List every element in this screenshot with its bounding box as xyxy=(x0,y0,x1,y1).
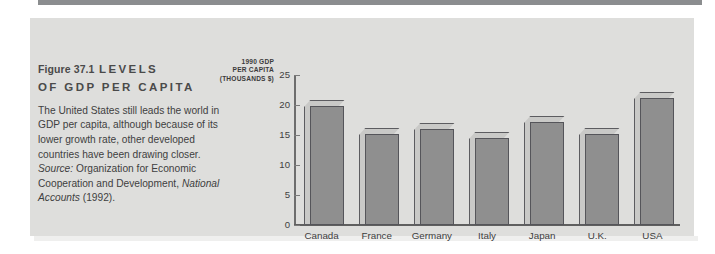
figure-number: Figure 37.1 xyxy=(38,63,95,75)
x-category-label: Japan xyxy=(515,230,570,241)
bar-front-face xyxy=(475,138,509,225)
x-category-label: USA xyxy=(625,230,680,241)
y-tick-label: 15 xyxy=(262,129,290,140)
bar-front-face xyxy=(530,122,564,225)
y-axis-title-line-3: (THOUSANDS $) xyxy=(166,75,274,83)
y-tick-label: 20 xyxy=(262,99,290,110)
bar-front-face xyxy=(365,134,399,225)
bar-group xyxy=(304,75,344,225)
page-top-rule xyxy=(38,0,702,5)
y-tick-label: 0 xyxy=(262,219,290,230)
y-axis-title-line-1: 1990 GDP xyxy=(166,58,274,66)
y-tick-label: 5 xyxy=(262,189,290,200)
bar-front-face xyxy=(310,106,344,225)
bar-series: CanadaFranceGermanyItalyJapanU.K.USA xyxy=(294,75,680,225)
y-tick-label: 25 xyxy=(262,69,290,80)
y-axis-title: 1990 GDP PER CAPITA (THOUSANDS $) xyxy=(166,58,274,83)
figure-caption: The United States still leads the world … xyxy=(38,105,219,160)
figure-caption-block: The United States still leads the world … xyxy=(38,104,234,206)
plot-area: 2520151050 CanadaFranceGermanyItalyJapan… xyxy=(294,75,680,225)
y-tick-label: 10 xyxy=(262,159,290,170)
bar xyxy=(304,100,344,225)
y-tick: 0 xyxy=(294,225,300,226)
source-year: (1992). xyxy=(83,192,115,203)
bar-group xyxy=(414,75,454,225)
x-category-label: Germany xyxy=(404,230,459,241)
x-category-label: Canada xyxy=(294,230,349,241)
figure-heading-line1: LEVELS xyxy=(99,63,158,75)
x-category-label: Italy xyxy=(459,230,514,241)
bar-chart: 1990 GDP PER CAPITA (THOUSANDS $) 252015… xyxy=(248,44,688,234)
bar-front-face xyxy=(640,98,674,225)
bar-group xyxy=(524,75,564,225)
bar-group xyxy=(469,75,509,225)
source-lead: Source: xyxy=(38,163,73,174)
bar-group xyxy=(634,75,674,225)
bar xyxy=(414,123,454,225)
figure-screenshot: Figure 37.1 LEVELS OF GDP PER CAPITA The… xyxy=(0,0,715,254)
bar-group xyxy=(579,75,619,225)
x-category-label: France xyxy=(349,230,404,241)
bar xyxy=(359,128,399,225)
y-axis-title-line-2: PER CAPITA xyxy=(166,66,274,74)
bar xyxy=(469,132,509,225)
x-category-label: U.K. xyxy=(570,230,625,241)
bar xyxy=(579,128,619,225)
bar xyxy=(524,116,564,225)
bar xyxy=(634,92,674,225)
bar-group xyxy=(359,75,399,225)
bar-front-face xyxy=(585,134,619,225)
bar-front-face xyxy=(420,129,454,225)
figure-panel: Figure 37.1 LEVELS OF GDP PER CAPITA The… xyxy=(30,18,694,236)
